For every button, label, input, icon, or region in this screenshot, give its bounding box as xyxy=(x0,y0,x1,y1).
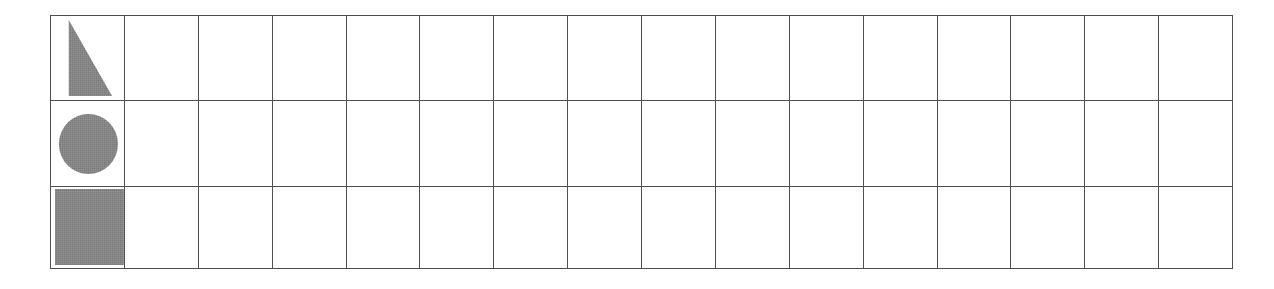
grid-cell-r2c2[interactable] xyxy=(124,101,198,187)
grid-cell-r3c1[interactable] xyxy=(51,187,125,269)
grid-body xyxy=(51,16,1233,269)
grid-cell-r1c4[interactable] xyxy=(272,16,346,101)
grid-cell-r1c12[interactable] xyxy=(863,16,937,101)
grid-cell-r3c13[interactable] xyxy=(937,187,1011,269)
grid-cell-r3c5[interactable] xyxy=(346,187,420,269)
grid-cell-r2c16[interactable] xyxy=(1159,101,1233,187)
square-shape-host xyxy=(51,187,124,268)
grid-cell-r2c15[interactable] xyxy=(1085,101,1159,187)
grid-cell-r3c6[interactable] xyxy=(420,187,494,269)
grid-cell-r2c14[interactable] xyxy=(1011,101,1085,187)
shape-grid xyxy=(50,15,1233,269)
grid-cell-r1c3[interactable] xyxy=(198,16,272,101)
grid-cell-r1c2[interactable] xyxy=(124,16,198,101)
grid-cell-r1c11[interactable] xyxy=(789,16,863,101)
grid-cell-r2c6[interactable] xyxy=(420,101,494,187)
grid-cell-r3c15[interactable] xyxy=(1085,187,1159,269)
grid-cell-r1c13[interactable] xyxy=(937,16,1011,101)
worksheet-canvas xyxy=(0,0,1274,289)
grid-cell-r2c4[interactable] xyxy=(272,101,346,187)
grid-row-3 xyxy=(51,187,1233,269)
grid-cell-r1c7[interactable] xyxy=(494,16,568,101)
circle-icon xyxy=(51,101,124,186)
grid-cell-r2c8[interactable] xyxy=(568,101,642,187)
square-icon xyxy=(51,187,124,268)
triangle-shape-host xyxy=(51,16,124,100)
grid-cell-r2c3[interactable] xyxy=(198,101,272,187)
grid-cell-r1c5[interactable] xyxy=(346,16,420,101)
grid-cell-r3c12[interactable] xyxy=(863,187,937,269)
grid-cell-r2c7[interactable] xyxy=(494,101,568,187)
grid-cell-r1c1[interactable] xyxy=(51,16,125,101)
grid-cell-r2c12[interactable] xyxy=(863,101,937,187)
grid-cell-r3c4[interactable] xyxy=(272,187,346,269)
grid-cell-r3c3[interactable] xyxy=(198,187,272,269)
right-triangle-icon xyxy=(51,16,124,100)
grid-cell-r3c11[interactable] xyxy=(789,187,863,269)
grid-cell-r1c6[interactable] xyxy=(420,16,494,101)
grid-cell-r1c16[interactable] xyxy=(1159,16,1233,101)
grid-cell-r3c7[interactable] xyxy=(494,187,568,269)
grid-cell-r2c1[interactable] xyxy=(51,101,125,187)
grid-cell-r2c10[interactable] xyxy=(715,101,789,187)
grid-cell-r3c10[interactable] xyxy=(715,187,789,269)
grid-cell-r2c5[interactable] xyxy=(346,101,420,187)
grid-cell-r3c8[interactable] xyxy=(568,187,642,269)
grid-cell-r1c8[interactable] xyxy=(568,16,642,101)
grid-cell-r1c15[interactable] xyxy=(1085,16,1159,101)
grid-row-1 xyxy=(51,16,1233,101)
grid-cell-r1c14[interactable] xyxy=(1011,16,1085,101)
grid-cell-r2c9[interactable] xyxy=(642,101,716,187)
grid-cell-r3c14[interactable] xyxy=(1011,187,1085,269)
circle-shape-host xyxy=(51,101,124,186)
grid-cell-r1c10[interactable] xyxy=(715,16,789,101)
grid-cell-r3c9[interactable] xyxy=(642,187,716,269)
grid-cell-r1c9[interactable] xyxy=(642,16,716,101)
grid-cell-r2c13[interactable] xyxy=(937,101,1011,187)
grid-row-2 xyxy=(51,101,1233,187)
grid-cell-r3c2[interactable] xyxy=(124,187,198,269)
grid-cell-r2c11[interactable] xyxy=(789,101,863,187)
grid-cell-r3c16[interactable] xyxy=(1159,187,1233,269)
